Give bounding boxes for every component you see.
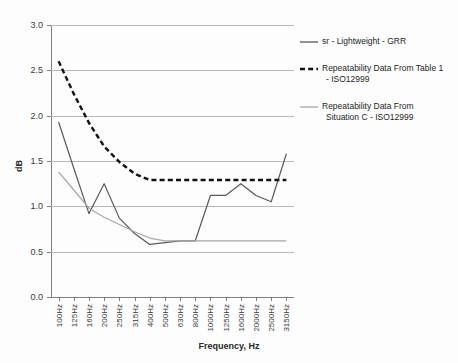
- x-tick-label: 1600Hz: [237, 304, 246, 332]
- x-tick-mark: [256, 297, 257, 301]
- line-chart: dB 0.00.51.01.52.02.53.0 100Hz125Hz160Hz…: [0, 0, 458, 363]
- legend-label: Repeatability Data FromSituation C - ISO…: [322, 101, 414, 123]
- x-tick-mark: [210, 297, 211, 301]
- x-tick-label: 2000Hz: [252, 304, 261, 332]
- x-tick-label: 500Hz: [161, 304, 170, 327]
- legend-marker-icon: [300, 36, 318, 47]
- x-tick-mark: [286, 297, 287, 301]
- y-tick-label: 1.5: [30, 156, 43, 166]
- legend-label: Repeatability Data From Table 1- ISO1299…: [322, 63, 443, 85]
- x-tick-mark: [150, 297, 151, 301]
- x-tick-label: 200Hz: [100, 304, 109, 327]
- legend-marker-icon: [300, 63, 318, 74]
- x-tick-mark: [135, 297, 136, 301]
- x-tick-label: 3150Hz: [282, 304, 291, 332]
- x-tick-label: 125Hz: [70, 304, 79, 327]
- y-tick-mark: [47, 297, 51, 298]
- y-tick-label: 0.0: [30, 292, 43, 302]
- legend-label-line2: Situation C - ISO12999: [322, 112, 414, 123]
- x-tick-label: 315Hz: [131, 304, 140, 327]
- x-axis-title: Frequency, Hz: [0, 341, 458, 351]
- legend-item[interactable]: Repeatability Data From Table 1- ISO1299…: [300, 63, 452, 85]
- x-tick-label: 1000Hz: [206, 304, 215, 332]
- legend-item[interactable]: Repeatability Data FromSituation C - ISO…: [300, 101, 452, 123]
- x-tick-mark: [226, 297, 227, 301]
- x-tick-mark: [165, 297, 166, 301]
- x-tick-mark: [119, 297, 120, 301]
- x-tick-label: 100Hz: [55, 304, 64, 327]
- legend-label: sr - Lightweight - GRR: [322, 36, 406, 47]
- x-tick-label: 1250Hz: [222, 304, 231, 332]
- x-tick-mark: [180, 297, 181, 301]
- x-tick-label: 800Hz: [191, 304, 200, 327]
- series-line: [59, 122, 287, 244]
- x-tick-mark: [104, 297, 105, 301]
- x-tick-label: 250Hz: [115, 304, 124, 327]
- y-tick-label: 3.0: [30, 20, 43, 30]
- x-tick-label: 160Hz: [85, 304, 94, 327]
- x-tick-mark: [241, 297, 242, 301]
- y-tick-label: 0.5: [30, 247, 43, 257]
- x-tick-mark: [195, 297, 196, 301]
- x-tick-label: 630Hz: [176, 304, 185, 327]
- series-lines: [51, 25, 294, 297]
- y-tick-label: 1.0: [30, 201, 43, 211]
- y-tick-label: 2.0: [30, 111, 43, 121]
- series-line: [59, 61, 287, 180]
- plot-area: 0.00.51.01.52.02.53.0 100Hz125Hz160Hz200…: [51, 25, 294, 297]
- x-tick-mark: [89, 297, 90, 301]
- x-tick-mark: [271, 297, 272, 301]
- legend-label-line2: - ISO12999: [322, 74, 443, 85]
- legend-item[interactable]: sr - Lightweight - GRR: [300, 36, 452, 47]
- legend-marker-icon: [300, 101, 318, 112]
- x-axis-line: [51, 297, 294, 298]
- x-tick-label: 400Hz: [146, 304, 155, 327]
- x-tick-label: 2500Hz: [267, 304, 276, 332]
- y-tick-label: 2.5: [30, 65, 43, 75]
- x-tick-mark: [74, 297, 75, 301]
- chart-legend: sr - Lightweight - GRRRepeatability Data…: [300, 36, 452, 139]
- x-tick-mark: [59, 297, 60, 301]
- y-axis-title: dB: [14, 160, 24, 172]
